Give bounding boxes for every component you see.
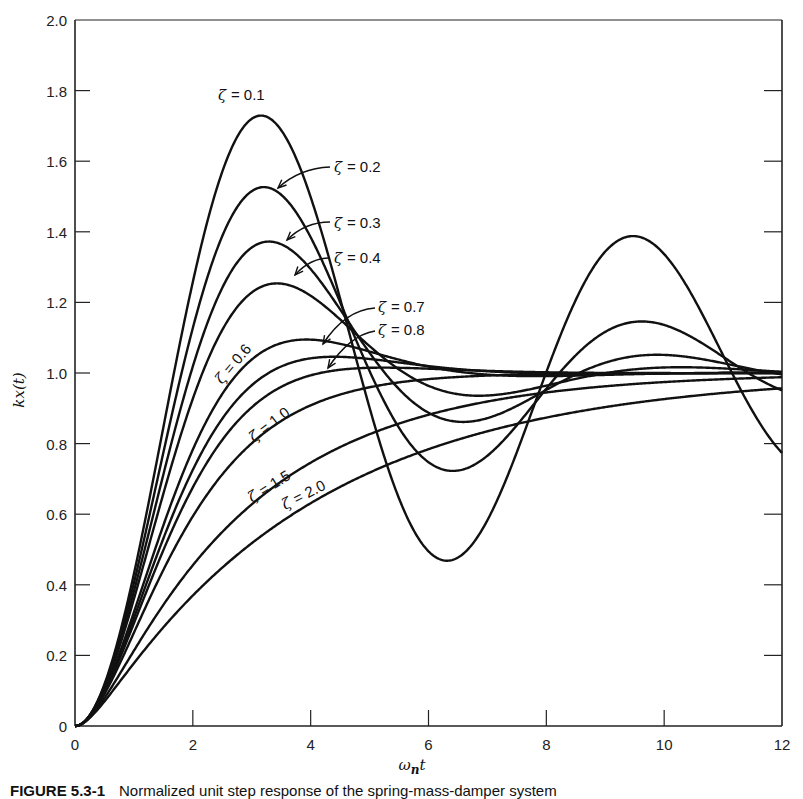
y-tick-label: 1.2 <box>46 294 67 311</box>
y-tick-label: 1.0 <box>46 365 67 382</box>
curve-zeta-0.8 <box>75 368 782 726</box>
curve-zeta-1 <box>75 373 782 726</box>
response-curves <box>75 116 782 726</box>
y-tick-label: 0.2 <box>46 647 67 664</box>
curve-zeta-2 <box>75 388 782 726</box>
figure-caption-text: Normalized unit step response of the spr… <box>119 782 557 799</box>
curve-zeta-0.4 <box>75 283 782 726</box>
curve-label-0.7: ζ = 0.7 <box>378 298 425 316</box>
x-axis-title-omega: ω <box>399 756 411 774</box>
curve-label-0.2: ζ = 0.2 <box>334 158 381 176</box>
x-axis-title: ωnt <box>399 756 427 777</box>
x-tick-label: 10 <box>656 736 673 753</box>
x-tick-label: 8 <box>542 736 550 753</box>
x-tick-label: 2 <box>189 736 197 753</box>
x-axis-title-subscript: n <box>411 763 420 777</box>
svg-text:ωnt: ωnt <box>399 756 427 777</box>
y-tick-label: 0.6 <box>46 506 67 523</box>
x-tick-label: 0 <box>71 736 79 753</box>
x-tick-label: 4 <box>306 736 314 753</box>
curve-label-0.1: ζ = 0.1 <box>218 86 265 104</box>
y-tick-label: 1.8 <box>46 83 67 100</box>
y-tick-label: 1.6 <box>46 153 67 170</box>
curve-zeta-0.1 <box>75 116 782 726</box>
curve-label-0.3: ζ = 0.3 <box>334 214 381 232</box>
tick-labels: 00.20.40.60.81.01.21.41.61.82.0024681012 <box>46 12 790 753</box>
y-tick-label: 0.4 <box>46 577 67 594</box>
x-tick-label: 6 <box>424 736 432 753</box>
figure-number: FIGURE 5.3-1 <box>10 782 105 799</box>
curve-label-1: ζ = 1.0 <box>245 403 293 446</box>
curve-label-0.8: ζ = 0.8 <box>378 321 425 339</box>
y-axis-title: kx(t) <box>10 372 28 407</box>
figure-caption: FIGURE 5.3-1Normalized unit step respons… <box>10 782 557 799</box>
y-tick-label: 0.8 <box>46 436 67 453</box>
y-tick-label: 0 <box>59 718 67 735</box>
y-tick-label: 1.4 <box>46 224 67 241</box>
x-axis-title-t: t <box>419 756 426 774</box>
y-tick-label: 2.0 <box>46 12 67 29</box>
curve-zeta-0.3 <box>75 242 782 726</box>
x-tick-label: 12 <box>774 736 791 753</box>
curve-label-0.4: ζ = 0.4 <box>334 249 381 267</box>
